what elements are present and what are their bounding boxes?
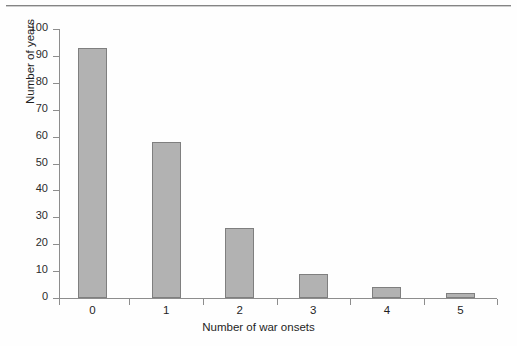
x-tick-label: 1 [146,304,186,316]
bar [372,287,401,298]
x-axis-title: Number of war onsets [0,321,517,333]
y-tick-label: 20 [5,236,48,248]
scan-artifact-line-soft [6,6,511,7]
bar [152,142,181,298]
bar [299,274,328,298]
x-tick-mark [203,299,204,305]
bar [78,48,107,298]
x-tick-mark [424,299,425,305]
x-tick-mark [350,299,351,305]
x-tick-label: 0 [73,304,113,316]
y-tick-label: 30 [5,209,48,221]
x-tick-label: 5 [441,304,481,316]
y-axis-title: Number of years [24,19,36,104]
bar [446,293,475,298]
x-tick-mark-origin [59,299,60,305]
bar [225,228,254,298]
y-tick-label: 60 [5,129,48,141]
figure-canvas: 0102030405060708090100 012345 Number of … [0,0,517,346]
x-axis-line [59,298,497,299]
y-tick-label: 10 [5,263,48,275]
y-tick-label: 50 [5,156,48,168]
x-tick-label: 3 [293,304,333,316]
x-tick-mark [277,299,278,305]
y-axis-title-anchor: Number of years [24,104,25,105]
x-tick-label: 2 [220,304,260,316]
plot-area [59,29,497,298]
y-tick-label: 40 [5,182,48,194]
x-tick-label: 4 [367,304,407,316]
x-tick-mark [129,299,130,305]
y-tick-label: 0 [5,290,48,302]
x-tick-mark [497,299,498,305]
